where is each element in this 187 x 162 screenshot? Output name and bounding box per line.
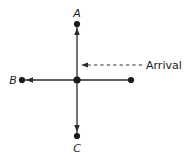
arrival-label: Arrival (146, 59, 182, 72)
axis-vertical-up-arrowhead (74, 28, 80, 35)
axis-vertical-down-arrowhead (74, 125, 80, 132)
center-point-dot (73, 76, 80, 83)
diagram-figure: A B C Arrival (0, 0, 187, 162)
point-a-label: A (72, 7, 81, 20)
point-a-dot (74, 21, 80, 27)
axis-horizontal-left-arrowhead (26, 77, 33, 83)
point-b-dot (19, 77, 25, 83)
arrival-arrow-group (81, 62, 142, 67)
arrival-origin-dot (128, 77, 134, 83)
labels-group: A B C Arrival (9, 7, 182, 155)
diagram-canvas: A B C Arrival (0, 0, 187, 162)
point-c-label: C (73, 142, 81, 155)
arrival-arrow-head-icon (81, 62, 88, 67)
point-b-label: B (9, 74, 17, 87)
point-c-dot (74, 133, 80, 139)
